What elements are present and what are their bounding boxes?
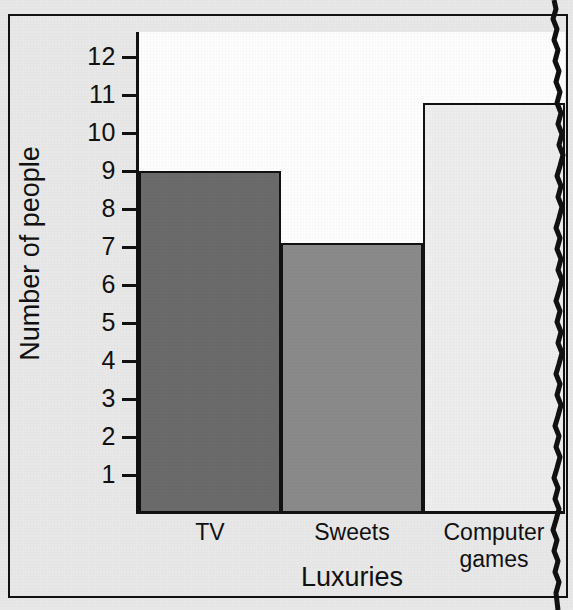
y-axis-tick: [122, 170, 139, 173]
figure-frame: 123456789101112 TVSweetsComputer games N…: [8, 14, 568, 598]
y-axis-tick: [122, 132, 139, 135]
y-axis-tick-label: 5: [70, 310, 116, 335]
y-axis-tick-label: 3: [70, 386, 116, 411]
y-axis-tick-label: 12: [70, 44, 116, 69]
y-axis-tick: [122, 436, 139, 439]
x-axis-title: Luxuries: [139, 562, 565, 593]
y-axis-tick-label: 11: [70, 82, 116, 107]
bar-sweets: [281, 243, 423, 513]
y-axis-tick-label: 6: [70, 272, 116, 297]
y-axis-tick-label: 1: [70, 462, 116, 487]
y-axis-tick-label: 8: [70, 196, 116, 221]
y-axis-tick-label: 2: [70, 424, 116, 449]
y-axis-tick: [122, 360, 139, 363]
y-axis-tick: [122, 246, 139, 249]
y-axis-title: Number of people: [15, 84, 46, 424]
y-axis-line: [136, 32, 139, 514]
category-label-sweets: Sweets: [281, 519, 423, 546]
y-axis-tick: [122, 398, 139, 401]
category-label-tv: TV: [139, 519, 281, 546]
y-axis-tick: [122, 94, 139, 97]
y-axis-tick: [122, 284, 139, 287]
y-axis-tick: [122, 56, 139, 59]
y-axis-tick-label: 7: [70, 234, 116, 259]
y-axis-tick: [122, 322, 139, 325]
y-axis-tick-label: 4: [70, 348, 116, 373]
y-axis-tick: [122, 474, 139, 477]
y-axis-tick-label: 9: [70, 158, 116, 183]
bar-tv: [139, 171, 281, 513]
x-axis-line: [136, 511, 565, 514]
y-axis-tick: [122, 208, 139, 211]
bar-computer-games: [423, 103, 565, 513]
scanned-chart-page: 123456789101112 TVSweetsComputer games N…: [0, 0, 573, 610]
y-axis-tick-label: 10: [70, 120, 116, 145]
